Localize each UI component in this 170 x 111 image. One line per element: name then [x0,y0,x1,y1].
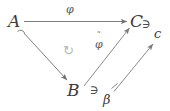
commutes-marker-icon: ↻ [63,44,74,57]
object-b: B [67,82,80,99]
object-a: A [8,13,20,30]
tilde-accent-icon: ˜ [95,32,103,41]
arrow-b-to-c [84,28,130,86]
arrow-a-to-b [18,30,68,80]
morphism-label-phi: φ [66,4,74,15]
element-beta: β [103,93,111,106]
membership-symbol-beta: ∋ [90,84,99,96]
morphism-label-phi-tilde: ˜ φ [95,39,103,50]
commutative-diagram: A B C ∋ c ∋ β φ ˜ φ ↻ [0,0,170,111]
arrow-beta-to-c-element [112,44,154,92]
membership-symbol-c: ∋ [142,18,151,30]
element-c: c [154,27,161,40]
